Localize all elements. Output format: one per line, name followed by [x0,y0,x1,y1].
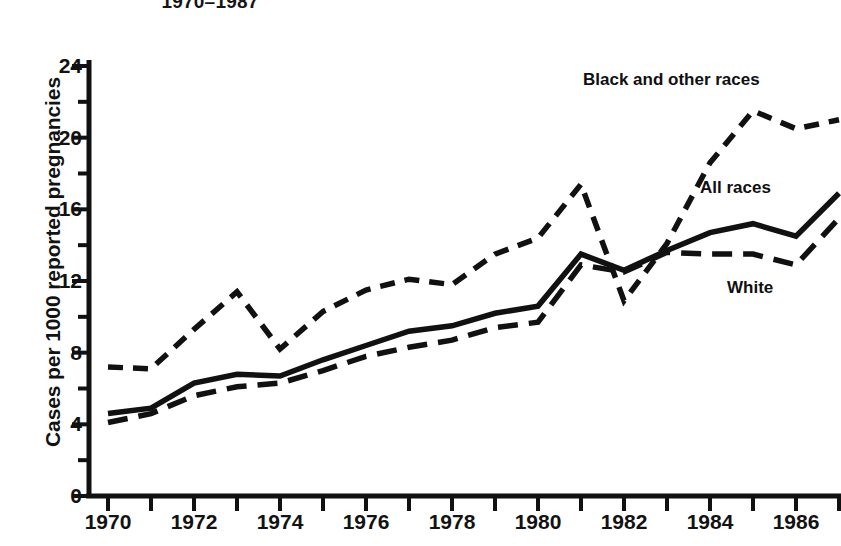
y-axis-ticks [72,66,89,496]
series-line-all-races [108,193,839,413]
series-line-black-and-other-races [108,111,839,369]
chart-root: 1970–1987 Cases per 1000 reported pregna… [0,0,841,546]
data-series [108,111,839,423]
chart-plot-area [0,0,841,546]
